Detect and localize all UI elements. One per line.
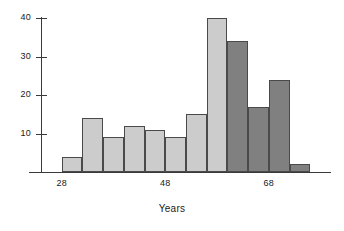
histogram-bar (290, 164, 311, 172)
histogram-bar (124, 126, 145, 172)
histogram-bar (103, 137, 124, 172)
y-tick-label: 10 (20, 128, 31, 138)
y-tick-label: 40 (20, 12, 31, 22)
histogram-bar (186, 114, 207, 172)
histogram-bar (269, 80, 290, 172)
x-axis-line (29, 172, 331, 173)
x-tick-label-68: 68 (264, 178, 275, 188)
x-tick-label-48: 48 (160, 178, 171, 188)
x-axis-title: Years (0, 203, 344, 214)
histogram-bar (207, 18, 228, 172)
histogram-figure: 10203040 284868 Years (0, 0, 344, 231)
histogram-bar (145, 130, 166, 172)
histogram-bar (62, 157, 83, 172)
histogram-bar (82, 118, 103, 172)
histogram-bar (248, 107, 269, 172)
histogram-bar (227, 41, 248, 172)
y-tick-label: 30 (20, 51, 31, 61)
bars-layer (41, 14, 331, 172)
x-tick-label-28: 28 (56, 178, 67, 188)
y-tick-label: 20 (20, 89, 31, 99)
histogram-bar (165, 137, 186, 172)
